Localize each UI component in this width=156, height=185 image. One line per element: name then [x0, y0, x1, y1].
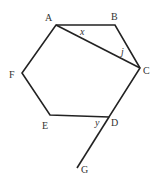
segment-DG	[77, 117, 109, 168]
label-G: G	[81, 164, 88, 175]
label-E: E	[42, 120, 48, 131]
hexagon-ABCDEF	[22, 25, 140, 117]
angle-label-j: j	[119, 46, 124, 57]
label-D: D	[111, 117, 118, 128]
label-B: B	[111, 11, 118, 22]
label-A: A	[45, 12, 53, 23]
label-F: F	[9, 69, 15, 80]
angle-label-x: x	[79, 26, 85, 37]
hexagon-diagram: A B C D E F G x j y	[0, 0, 156, 185]
angle-label-y: y	[94, 117, 100, 128]
label-C: C	[143, 65, 150, 76]
